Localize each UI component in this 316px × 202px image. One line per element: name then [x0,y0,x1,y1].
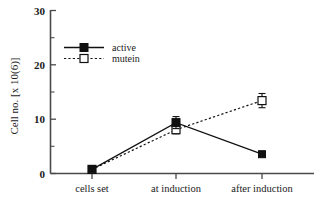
legend-label-active: active [112,42,136,53]
marker-mutein-after-induction [258,97,266,105]
y-tick-label-10: 10 [34,113,46,125]
y-axis-tick-labels: 30 20 10 0 [34,5,46,180]
x-axis-category-labels: cells set at induction after induction [75,183,293,194]
series-mutein-errorbars [173,94,266,134]
axes-group [51,10,315,174]
chart-container: 30 20 10 0 Cell no. [x 10(6)] cells set … [0,0,316,202]
y-tick-label-30: 30 [34,5,46,17]
legend: active mutein [64,42,140,64]
x-label-at-induction: at induction [151,183,202,194]
legend-item-active: active [64,42,136,53]
legend-marker-mutein [80,55,88,63]
marker-active-cells-set [89,166,96,173]
x-label-cells-set: cells set [75,183,109,194]
y-axis-title: Cell no. [x 10(6)] [8,58,21,135]
legend-marker-active [80,44,88,52]
y-tick-label-0: 0 [40,168,46,180]
x-label-after-induction: after induction [231,183,293,194]
marker-active-after-induction [259,151,266,158]
y-axis-ticks [51,11,57,174]
legend-label-mutein: mutein [112,53,140,64]
line-chart: 30 20 10 0 Cell no. [x 10(6)] cells set … [0,0,316,202]
marker-active-at-induction [172,119,180,127]
series-active [89,117,266,173]
series-mutein [88,94,266,174]
series-mutein-line [92,101,262,170]
y-tick-label-20: 20 [34,59,46,71]
x-axis-ticks [92,174,262,180]
legend-item-mutein: mutein [64,53,140,64]
